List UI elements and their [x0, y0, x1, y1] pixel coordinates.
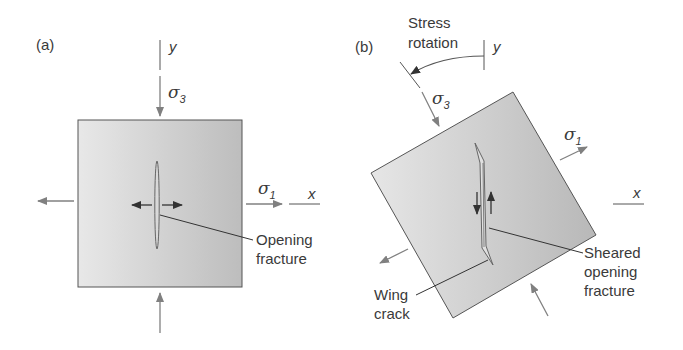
sigma3-symbol: σ3 [168, 82, 187, 105]
panel-a: (a) y σ3 σ1 x Opening fracture [36, 36, 320, 333]
y-axis-label: y [168, 38, 178, 55]
y-axis-label-b: y [492, 38, 502, 55]
opening-fracture-label-1: Opening [256, 231, 313, 248]
panel-a-label: (a) [36, 36, 54, 53]
opening-fracture [155, 161, 159, 249]
panel-b: (b) Stress rotation y σ3 σ1 x [355, 14, 644, 322]
x-axis-label-b: x [632, 184, 641, 201]
sigma1-symbol-b: σ1 [564, 124, 582, 147]
rotated-axis-line [400, 62, 420, 88]
rock-block [78, 120, 242, 287]
sheared-label-1: Sheared [584, 244, 641, 261]
opening-fracture-label-2: fracture [256, 250, 307, 267]
sigma3-symbol-b: σ3 [432, 88, 451, 111]
sheared-label-3: fracture [584, 282, 635, 299]
sigma1-symbol: σ1 [258, 178, 276, 201]
sheared-label-2: opening [584, 263, 637, 280]
fracture-diagram: (a) y σ3 σ1 x Opening fracture (b) Stres… [0, 0, 683, 350]
sigma1-arrow-right-b [560, 147, 587, 160]
sigma3-arrow-bottom-b [531, 284, 548, 316]
x-axis-label: x [307, 185, 316, 202]
panel-b-label: (b) [355, 38, 373, 55]
wing-crack-label-2: crack [374, 305, 410, 322]
stress-rotation-label-1: Stress [408, 14, 451, 31]
stress-rotation-label-2: rotation [408, 34, 458, 51]
sigma1-arrow-left-b [380, 249, 408, 263]
stress-rotation-arrow [411, 56, 484, 74]
wing-crack-label-1: Wing [374, 286, 408, 303]
